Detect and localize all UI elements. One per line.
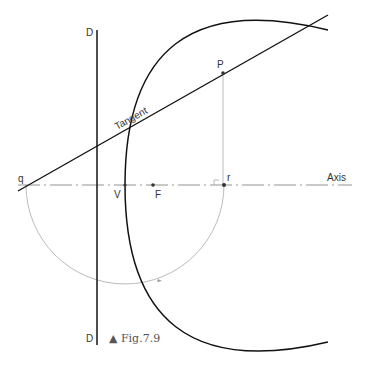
vertex-dot	[123, 183, 126, 186]
vertex-label: V	[114, 189, 121, 200]
right-angle-mark	[214, 180, 219, 185]
point-p-label: P	[217, 59, 224, 70]
point-q-label: q	[18, 173, 24, 184]
arc-arrow-icon	[157, 279, 162, 282]
parabola-curve	[125, 20, 328, 351]
point-r-dot	[222, 183, 226, 187]
focus-dot	[151, 183, 155, 187]
point-r-label: r	[227, 172, 231, 183]
directrix-bottom-label: D	[86, 333, 93, 344]
point-p-dot	[221, 71, 225, 75]
parabola-tangent-diagram: D D Tangent P q r V F Axis ▲ Fig.7.9	[0, 0, 365, 365]
focus-label: F	[155, 189, 161, 200]
figure-caption: ▲ Fig.7.9	[109, 332, 160, 345]
directrix-top-label: D	[86, 27, 93, 38]
axis-label: Axis	[327, 172, 346, 183]
diagram-canvas: D D Tangent P q r V F Axis ▲ Fig.7.9	[0, 0, 365, 365]
tangent-line	[18, 15, 328, 191]
tangent-label: Tangent	[113, 105, 150, 132]
